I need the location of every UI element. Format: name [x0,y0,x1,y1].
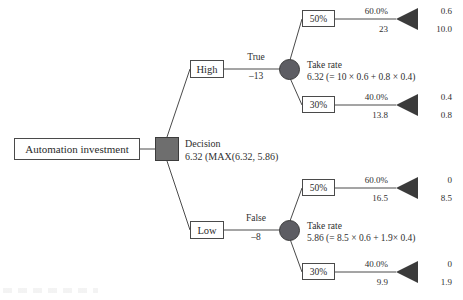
terminal-triangle-high-30 [396,94,418,116]
edge-label-high-cost: –13 [238,71,274,83]
pct-box-high-30-label: 30% [310,100,327,110]
prob-high-30: 40.0% [340,92,388,103]
end-value-high-50-top: 0.6 [424,6,452,17]
prob-low-30: 40.0% [340,259,388,270]
chance-node-high-title: Take rate [307,60,416,72]
decision-node-square[interactable] [155,137,179,161]
edge-chance-high-to-50 [290,19,302,60]
payoff-high-50: 23 [340,24,388,35]
end-value-low-30-top: 0 [424,259,452,270]
pct-box-low-50[interactable]: 50% [302,179,335,196]
decision-node-title: Decision [185,138,278,151]
chance-node-low-formula: 5.86 (= 8.5 × 0.6 + 1.9× 0.4) [307,233,416,245]
end-value-low-50-top: 0 [424,175,452,186]
edge-chance-high-to-30 [290,78,302,105]
branch-box-high[interactable]: High [190,60,224,78]
chance-node-high-formula: 6.32 (= 10 × 0.6 + 0.8 × 0.4) [307,72,416,84]
pct-box-low-30-label: 30% [310,267,327,277]
chance-node-low-text: Take rate 5.86 (= 8.5 × 0.6 + 1.9× 0.4) [307,221,416,245]
terminal-triangle-low-50 [396,177,418,199]
pct-box-high-30[interactable]: 30% [302,96,335,113]
root-node-label: Automation investment [25,143,129,155]
edge-label-low-cost: –8 [236,232,276,244]
terminal-triangle-low-30 [396,261,418,283]
branch-box-low[interactable]: Low [190,221,224,239]
end-value-low-50-bottom: 8.5 [424,193,452,204]
decision-tree-diagram: Automation investment Decision 6.32 (MAX… [0,0,463,300]
payoff-high-30: 13.8 [340,110,388,121]
edge-label-low-false: False [236,213,276,225]
end-value-high-30-bottom: 0.8 [424,110,452,121]
decision-node-text: Decision 6.32 (MAX(6.32, 5.86) [185,138,278,163]
pct-box-low-50-label: 50% [310,183,327,193]
pct-box-high-50-label: 50% [310,14,327,24]
payoff-low-30: 9.9 [340,277,388,288]
pct-box-low-30[interactable]: 30% [302,263,335,280]
chance-node-high-take-rate[interactable] [279,59,300,80]
terminal-triangle-high-50 [396,8,418,30]
edge-label-high-true: True [238,52,274,64]
end-value-low-30-bottom: 1.9 [424,277,452,288]
edge-decision-to-low [167,161,190,230]
chance-node-low-take-rate[interactable] [279,220,300,241]
decision-node-value: 6.32 (MAX(6.32, 5.86) [185,151,278,164]
chance-node-low-title: Take rate [307,221,416,233]
end-value-high-50-bottom: 10.0 [424,24,452,35]
prob-low-50: 60.0% [340,175,388,186]
edge-chance-low-to-50 [290,188,302,221]
branch-box-high-label: High [197,64,218,75]
prob-high-50: 60.0% [340,6,388,17]
pct-box-high-50[interactable]: 50% [302,10,335,27]
branch-box-low-label: Low [197,225,216,236]
root-node-automation-investment[interactable]: Automation investment [14,138,140,160]
edge-decision-to-high [167,69,190,137]
end-value-high-30-top: 0.4 [424,92,452,103]
chance-node-high-text: Take rate 6.32 (= 10 × 0.6 + 0.8 × 0.4) [307,60,416,84]
page-scan-artifact [3,288,98,293]
payoff-low-50: 16.5 [340,193,388,204]
edge-chance-low-to-30 [290,239,302,272]
